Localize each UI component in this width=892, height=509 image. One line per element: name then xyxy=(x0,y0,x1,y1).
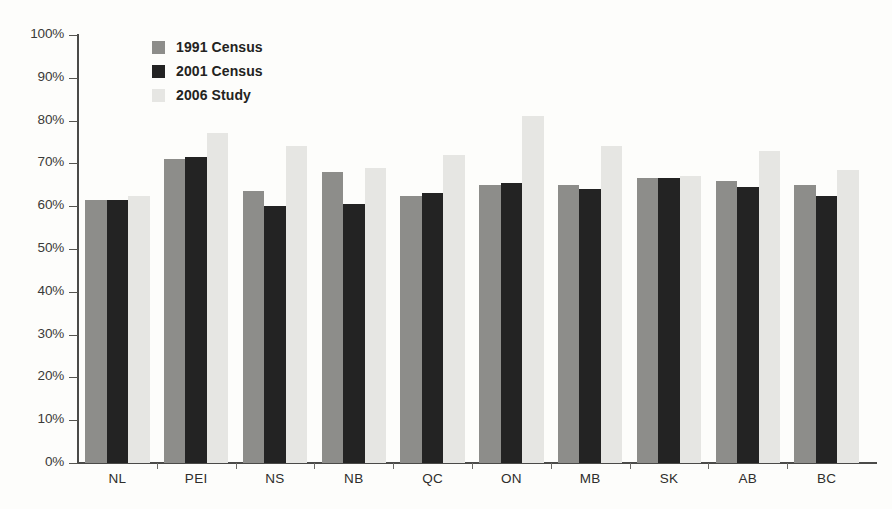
x-axis-tick xyxy=(551,463,552,469)
x-axis-tick xyxy=(393,463,394,469)
legend-label-1991-census: 1991 Census xyxy=(176,39,263,55)
x-axis-tick xyxy=(787,463,788,469)
y-axis-tick xyxy=(69,163,78,164)
bar xyxy=(343,204,365,463)
y-axis-tick xyxy=(69,121,78,122)
grouped-bar-chart: 100%90%80%70%60%50%40%30%20%10%0% 1991 C… xyxy=(0,0,892,509)
x-axis-tick-label: NB xyxy=(314,471,393,486)
legend-swatch-icon-2001-census xyxy=(152,65,165,78)
bar xyxy=(716,181,738,463)
bar xyxy=(207,133,229,463)
y-axis-tick-label: 50% xyxy=(6,240,64,255)
y-axis-tick-label: 80% xyxy=(6,112,64,127)
bar-group xyxy=(85,35,150,463)
x-axis-tick-label: QC xyxy=(393,471,472,486)
bar-group xyxy=(637,35,702,463)
bar xyxy=(322,172,344,463)
bar-group xyxy=(558,35,623,463)
bar xyxy=(443,155,465,463)
x-axis-tick-label: BC xyxy=(787,471,866,486)
y-axis-tick xyxy=(69,463,78,464)
bar xyxy=(737,187,759,463)
legend-item-2001-census: 2001 Census xyxy=(152,60,382,82)
bar xyxy=(816,196,838,464)
bar xyxy=(579,189,601,463)
bar xyxy=(558,185,580,463)
x-axis-tick xyxy=(314,463,315,469)
y-axis-tick xyxy=(69,78,78,79)
y-axis-tick xyxy=(69,206,78,207)
bar-group xyxy=(479,35,544,463)
y-axis-tick-label: 90% xyxy=(6,69,64,84)
bar xyxy=(185,157,207,463)
bar xyxy=(286,146,308,463)
y-axis-tick xyxy=(69,335,78,336)
bar xyxy=(85,200,107,463)
x-axis-tick-label: AB xyxy=(708,471,787,486)
bar xyxy=(759,151,781,463)
bar xyxy=(264,206,286,463)
chart-legend: 1991 Census 2001 Census 2006 Study xyxy=(152,36,382,108)
y-axis-tick-label: 70% xyxy=(6,154,64,169)
y-axis-tick xyxy=(69,377,78,378)
bar xyxy=(365,168,387,463)
bar xyxy=(794,185,816,463)
bar xyxy=(601,146,623,463)
bar xyxy=(400,196,422,464)
y-axis-tick xyxy=(69,35,78,36)
bar-group xyxy=(794,35,859,463)
y-axis-tick-label: 100% xyxy=(6,26,64,41)
bar xyxy=(422,193,444,463)
y-axis-tick-label: 30% xyxy=(6,326,64,341)
legend-label-2001-census: 2001 Census xyxy=(176,63,263,79)
y-axis-tick xyxy=(69,292,78,293)
bar xyxy=(658,178,680,463)
legend-label-2006-study: 2006 Study xyxy=(176,87,251,103)
x-axis-tick xyxy=(157,463,158,469)
bar xyxy=(501,183,523,463)
x-axis-tick xyxy=(236,463,237,469)
bar-group xyxy=(400,35,465,463)
legend-swatch-icon-2006-study xyxy=(152,89,165,102)
bar xyxy=(107,200,129,463)
x-axis-tick-label: PEI xyxy=(157,471,236,486)
x-axis-tick-label: NL xyxy=(78,471,157,486)
y-axis-tick-label: 0% xyxy=(6,454,64,469)
y-axis-tick xyxy=(69,420,78,421)
bar xyxy=(837,170,859,463)
y-axis-tick-label: 20% xyxy=(6,368,64,383)
x-axis-tick-label: MB xyxy=(551,471,630,486)
x-axis-tick xyxy=(472,463,473,469)
y-axis-tick-label: 60% xyxy=(6,197,64,212)
x-axis-tick-label: SK xyxy=(630,471,709,486)
legend-item-1991-census: 1991 Census xyxy=(152,36,382,58)
bar xyxy=(522,116,544,463)
bar xyxy=(128,196,150,464)
bar xyxy=(479,185,501,463)
y-axis-tick-label: 40% xyxy=(6,283,64,298)
legend-swatch-icon-1991-census xyxy=(152,41,165,54)
bar xyxy=(164,159,186,463)
bar-group xyxy=(716,35,781,463)
x-axis-tick xyxy=(630,463,631,469)
bar xyxy=(243,191,265,463)
x-axis-tick-label: ON xyxy=(472,471,551,486)
bar xyxy=(680,176,702,463)
x-axis-tick xyxy=(708,463,709,469)
bar xyxy=(637,178,659,463)
legend-item-2006-study: 2006 Study xyxy=(152,84,382,106)
y-axis-tick-labels: 100%90%80%70%60%50%40%30%20%10%0% xyxy=(0,0,64,509)
y-axis-tick xyxy=(69,249,78,250)
y-axis-tick-label: 10% xyxy=(6,411,64,426)
x-axis-tick-label: NS xyxy=(236,471,315,486)
